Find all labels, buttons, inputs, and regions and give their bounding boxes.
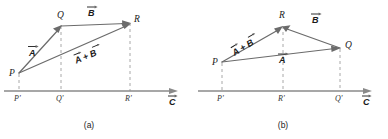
point-label-r-prime: R'	[277, 94, 285, 103]
vector-b-label-bar-arrow	[95, 6, 98, 9]
panel-b-label-vector-b: B	[311, 13, 322, 25]
point-label-p-prime: P'	[216, 94, 224, 103]
vector-b-shaft	[287, 29, 340, 48]
panel-a-vector-a-plus-b	[19, 23, 131, 73]
vector-b-label-text: B	[88, 8, 95, 18]
vector-a-label-bar-arrow	[36, 45, 39, 48]
panel-a-vector-a	[19, 25, 62, 73]
vector-a-label-text: A	[28, 48, 36, 58]
panel-a-label-vector-a: A	[28, 45, 39, 58]
point-label-q: Q	[57, 10, 64, 20]
panel-b-diagram: P R Q P' R' Q' A B A + B C	[194, 0, 388, 139]
axis-c-label-text: C	[169, 97, 176, 107]
panel-a-label-axis-c: C	[168, 95, 178, 107]
vector-b-label-text: B	[312, 15, 319, 25]
point-label-r-prime: R'	[124, 94, 132, 103]
vector-a-label-text: A	[278, 55, 286, 65]
point-label-r: R	[278, 10, 285, 20]
axis-arrowhead-c	[169, 88, 178, 94]
panel-b-label-vector-a-plus-b: A + B	[228, 32, 260, 58]
point-label-p: P	[8, 68, 15, 78]
caption-panel-a: (a)	[69, 120, 109, 130]
panel-b-label-axis-c: C	[362, 95, 372, 107]
vector-a-plus-b-arrowhead	[274, 26, 283, 34]
panel-a-label-vector-a-plus-b: A + B	[71, 43, 104, 66]
vector-a-label-bar-arrow	[286, 53, 289, 56]
panel-b-vector-b	[282, 25, 340, 48]
vector-a-shaft	[19, 29, 59, 73]
vector-b-label-bar-arrow	[319, 13, 322, 16]
caption-panel-b: (b)	[263, 120, 303, 130]
vector-b-shaft	[61, 24, 126, 27]
vector-sum-label-bar-b-arrow	[97, 43, 100, 46]
vector-sum-label-text: A + B	[72, 47, 98, 66]
panel-a-label-vector-b: B	[87, 6, 98, 18]
point-label-q-prime: Q'	[56, 94, 64, 103]
panel-a-vector-b	[61, 20, 131, 26]
panel-b-label-vector-a: A	[278, 53, 289, 65]
axis-c-label-text: C	[363, 97, 370, 107]
point-label-q: Q	[345, 40, 352, 50]
panel-a-diagram: P Q R P' Q' R' A B A + B C	[0, 0, 194, 139]
point-label-r: R	[133, 14, 140, 24]
vector-sum-label-text: A + B	[230, 37, 256, 58]
point-label-q-prime: Q'	[335, 94, 343, 103]
axis-arrowhead-c	[363, 88, 372, 94]
vector-addition-figure: P Q R P' Q' R' A B A + B C	[0, 0, 388, 139]
point-label-p: P	[211, 57, 218, 67]
panel-b-axis-c	[198, 88, 372, 94]
point-label-p-prime: P'	[13, 94, 21, 103]
panel-a-axis-c	[4, 88, 178, 94]
